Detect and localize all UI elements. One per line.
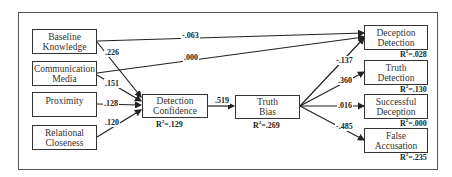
node-label: Detection — [378, 38, 415, 48]
r2-deception-detection: R2=.028 — [400, 49, 427, 59]
node-relational-closeness: Relational Closeness — [32, 125, 97, 150]
node-label: Bias — [259, 107, 276, 117]
node-label: Knowledge — [43, 42, 87, 52]
node-communication-media: Communication Media — [32, 61, 97, 86]
node-false-accusation: False Accusation — [364, 128, 428, 153]
node-label: Proximity — [45, 96, 83, 106]
node-label: Relational — [45, 128, 84, 138]
node-label: Deception — [376, 107, 415, 117]
coef-relational-confidence: .120 — [104, 118, 120, 127]
r2-detection-confidence: R2=.129 — [156, 119, 183, 129]
node-label: Confidence — [153, 106, 197, 116]
coef-baseline-confidence: .226 — [104, 48, 120, 57]
node-label: Media — [52, 74, 76, 84]
node-label: Deception — [376, 28, 415, 38]
node-deception-detection: Deception Detection — [364, 25, 428, 50]
coef-communication-confidence: .151 — [104, 79, 120, 88]
coef-baseline-deception: -.063 — [181, 31, 200, 40]
r2-false-accusation: R2=.235 — [400, 152, 427, 162]
node-label: Successful — [376, 97, 417, 107]
coef-proximity-confidence: .128 — [103, 99, 119, 108]
coef-truthbias-successful: .016 — [337, 101, 353, 110]
node-truth-detection: Truth Detection — [364, 60, 428, 85]
node-label: False — [386, 131, 406, 141]
coef-truthbias-falseaccusation: -.485 — [335, 122, 354, 131]
r2-successful-deception: R2=.000 — [400, 118, 427, 128]
node-successful-deception: Successful Deception — [364, 94, 428, 119]
node-label: Detection — [157, 96, 194, 106]
coef-truthbias-truthdetection: .360 — [337, 76, 353, 85]
node-label: Accusation — [375, 141, 418, 151]
node-proximity: Proximity — [32, 92, 97, 117]
node-detection-confidence: Detection Confidence — [142, 94, 208, 118]
node-label: Baseline — [48, 32, 81, 42]
r2-truth-bias: R2=.269 — [253, 120, 280, 130]
node-truth-bias: Truth Bias — [235, 95, 300, 119]
coef-confidence-truthbias: .519 — [214, 96, 230, 105]
node-label: Detection — [378, 73, 415, 83]
coef-communication-deception: .000 — [183, 53, 199, 62]
node-label: Communication — [34, 64, 95, 74]
node-label: Closeness — [46, 138, 84, 148]
node-label: Truth — [257, 97, 278, 107]
coef-truthbias-deception: -.137 — [335, 56, 354, 65]
r2-truth-detection: R2=.130 — [400, 84, 427, 94]
node-baseline-knowledge: Baseline Knowledge — [32, 29, 97, 54]
node-label: Truth — [386, 63, 407, 73]
